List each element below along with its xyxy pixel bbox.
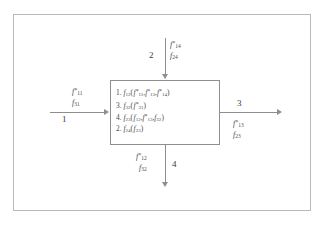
equation-step-3: 4. f23( f12,f*13,f32)	[116, 111, 217, 124]
port-3-signal-stack: f*13 f23	[233, 117, 244, 140]
port-2-signal-1: f24	[170, 51, 181, 62]
port-3-signal-0: f*13	[233, 117, 244, 130]
port-4-index-label: 4	[172, 159, 177, 169]
port-1-index-label: 1	[62, 114, 67, 124]
port-2-signal-stack: f*14 f24	[170, 38, 181, 61]
port-4-signal-1: f32	[136, 163, 147, 174]
step-4-order: 2.	[116, 124, 122, 133]
equation-step-2: 3. f32( f*31)	[116, 99, 217, 112]
port-1-signal-0: f*11	[72, 85, 83, 98]
port-2-index-label: 2	[149, 50, 154, 60]
step-1-order: 1.	[116, 88, 122, 97]
port-4-signal-0: f*12	[136, 150, 147, 163]
port-4-signal-stack: f*12 f32	[136, 150, 147, 173]
port-3-connector-line	[220, 112, 278, 113]
diagram-canvas: 2 f*14 f24 1 f*11 f31 3 f*13 f23 4 f*12 …	[0, 0, 330, 225]
equation-step-4: 2. f24( f23)	[116, 124, 217, 135]
port-4-connector-line	[165, 145, 166, 183]
port-4-arrowhead	[162, 182, 168, 187]
equation-list: 1. f12( f*11,f*13,f*14) 3. f32( f*31) 4.…	[116, 86, 217, 135]
step-3-order: 4.	[116, 113, 122, 122]
port-3-index-label: 3	[237, 98, 242, 108]
port-1-arrowhead	[104, 109, 109, 115]
port-1-connector-line	[50, 112, 105, 113]
port-1-signal-1: f31	[72, 98, 83, 109]
port-2-signal-0: f*14	[170, 38, 181, 51]
port-3-signal-1: f23	[233, 130, 244, 141]
port-2-connector-line	[165, 38, 166, 74]
process-box: 1. f12( f*11,f*13,f*14) 3. f32( f*31) 4.…	[110, 80, 220, 145]
port-2-arrowhead	[162, 74, 168, 79]
port-1-signal-stack: f*11 f31	[72, 85, 83, 108]
step-2-order: 3.	[116, 101, 122, 110]
port-3-arrowhead	[277, 109, 282, 115]
equation-step-1: 1. f12( f*11,f*13,f*14)	[116, 86, 217, 99]
